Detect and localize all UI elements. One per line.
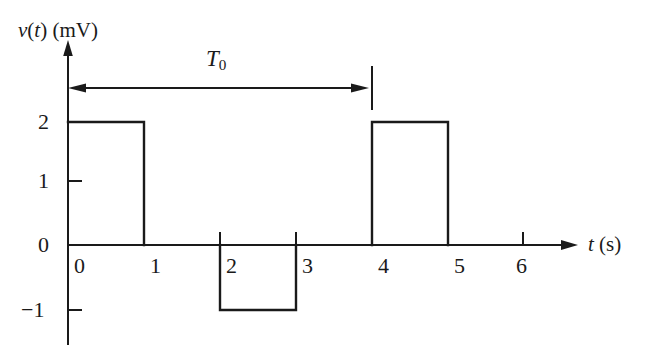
y-axis-title-var: v (18, 18, 27, 42)
x-axis-arrowhead (561, 240, 578, 250)
x-tick-label-1: 1 (150, 255, 161, 277)
x-axis-title-var: t (588, 232, 594, 256)
y-tick-label-1: 1 (38, 170, 49, 192)
y-tick-label-2: 2 (38, 111, 49, 133)
waveform-figure: v(t) (mV) t (s) T0 2 1 0 −1 0 1 2 3 4 5 … (0, 0, 645, 352)
y-axis-title-arg: (t) (27, 18, 47, 42)
x-axis-title: t (s) (588, 234, 621, 255)
period-arrowhead-right (351, 84, 369, 93)
y-axis-title: v(t) (mV) (18, 20, 98, 41)
x-tick-label-5: 5 (454, 255, 465, 277)
x-tick-label-0: 0 (74, 255, 85, 277)
period-label: T0 (206, 47, 226, 72)
y-tick-label-minus1: −1 (21, 299, 44, 321)
y-axis-title-arg-var: t (34, 18, 40, 42)
pulse-positive-2 (372, 122, 448, 245)
period-label-subscript: 0 (219, 56, 227, 73)
y-axis-title-unit: (mV) (52, 18, 98, 42)
y-axis-arrowhead (63, 40, 73, 56)
y-tick-label-0: 0 (38, 234, 49, 256)
x-tick-label-4: 4 (378, 255, 389, 277)
x-axis-title-unit: (s) (599, 232, 621, 256)
x-tick-label-2: 2 (226, 255, 237, 277)
period-arrowhead-left (68, 84, 86, 93)
x-tick-label-6: 6 (516, 255, 527, 277)
waveform-svg (0, 0, 645, 352)
pulse-positive-1 (68, 122, 144, 245)
period-label-base: T (206, 46, 219, 71)
x-tick-label-3: 3 (302, 255, 313, 277)
